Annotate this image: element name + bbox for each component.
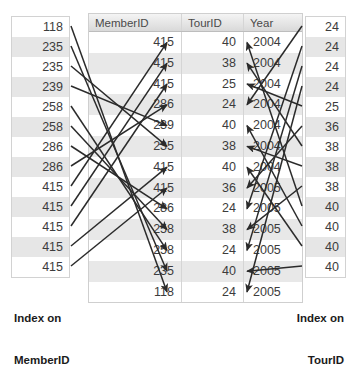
- data-table: MemberID TourID Year 4154020044153820044…: [88, 13, 303, 303]
- caption-right-line1: Index on: [258, 311, 344, 325]
- cell-memberid: 235: [89, 136, 182, 157]
- index-memberid-entry: 415: [12, 257, 69, 277]
- index-memberid-entry: 258: [12, 97, 69, 117]
- table-row: 415382004: [89, 53, 302, 74]
- index-tourid-entry: 40: [306, 217, 345, 237]
- table-body: 4154020044153820044152520042862420042394…: [89, 32, 302, 302]
- cell-tourid: 24: [182, 94, 244, 115]
- index-column-memberid: 118235235239258258286286415415415415415: [11, 16, 70, 278]
- cell-year: 2004: [244, 136, 302, 157]
- cell-memberid: 415: [89, 74, 182, 95]
- index-tourid-entry: 40: [306, 257, 345, 277]
- index-memberid-entry: 286: [12, 157, 69, 177]
- table-row: 286242004: [89, 94, 302, 115]
- cell-memberid: 415: [89, 32, 182, 53]
- index-memberid-entry: 235: [12, 37, 69, 57]
- index-memberid-entry: 415: [12, 217, 69, 237]
- index-tourid-entry: 24: [306, 77, 345, 97]
- index-tourid-entry: 36: [306, 117, 345, 137]
- cell-year: 2005: [244, 240, 302, 261]
- index-tourid-entry: 38: [306, 177, 345, 197]
- table-row: 415402004: [89, 157, 302, 178]
- index-memberid-entry: 235: [12, 57, 69, 77]
- cell-year: 2004: [244, 53, 302, 74]
- column-header-memberid: MemberID: [89, 14, 182, 31]
- cell-memberid: 415: [89, 53, 182, 74]
- index-tourid-entry: 38: [306, 157, 345, 177]
- table-row: 415252004: [89, 74, 302, 95]
- index-tourid-entry: 40: [306, 237, 345, 257]
- cell-year: 2004: [244, 157, 302, 178]
- index-memberid-entry: 118: [12, 17, 69, 37]
- column-header-tourid: TourID: [182, 14, 244, 31]
- index-tourid-entry: 25: [306, 97, 345, 117]
- cell-memberid: 286: [89, 94, 182, 115]
- cell-year: 2004: [244, 115, 302, 136]
- cell-year: 2005: [244, 261, 302, 282]
- cell-memberid: 258: [89, 219, 182, 240]
- table-row: 235382004: [89, 136, 302, 157]
- caption-left-line2: MemberID: [14, 353, 70, 367]
- caption-index-memberid: Index on MemberID: [14, 283, 70, 368]
- column-header-year: Year: [244, 14, 302, 31]
- cell-memberid: 415: [89, 157, 182, 178]
- index-memberid-entry: 415: [12, 237, 69, 257]
- cell-memberid: 258: [89, 240, 182, 261]
- cell-memberid: 286: [89, 198, 182, 219]
- cell-tourid: 40: [182, 32, 244, 53]
- cell-year: 2004: [244, 74, 302, 95]
- table-row: 258382005: [89, 219, 302, 240]
- index-column-tourid: 24242424253638383840404040: [305, 16, 346, 278]
- index-memberid-entry: 258: [12, 117, 69, 137]
- cell-tourid: 38: [182, 219, 244, 240]
- cell-tourid: 40: [182, 157, 244, 178]
- index-tourid-entry: 24: [306, 37, 345, 57]
- cell-memberid: 118: [89, 282, 182, 303]
- cell-memberid: 415: [89, 178, 182, 199]
- cell-tourid: 25: [182, 74, 244, 95]
- cell-year: 2004: [244, 32, 302, 53]
- cell-memberid: 235: [89, 261, 182, 282]
- cell-year: 2005: [244, 198, 302, 219]
- table-header-row: MemberID TourID Year: [89, 14, 302, 32]
- caption-index-tourid: Index on TourID: [258, 283, 344, 368]
- table-row: 286242005: [89, 198, 302, 219]
- index-memberid-entry: 239: [12, 77, 69, 97]
- cell-year: 2005: [244, 178, 302, 199]
- index-tourid-entry: 40: [306, 197, 345, 217]
- table-row: 415362005: [89, 178, 302, 199]
- cell-tourid: 40: [182, 261, 244, 282]
- index-memberid-entry: 286: [12, 137, 69, 157]
- index-tourid-entry: 24: [306, 17, 345, 37]
- table-row: 235402005: [89, 261, 302, 282]
- cell-year: 2005: [244, 219, 302, 240]
- index-tourid-entry: 24: [306, 57, 345, 77]
- cell-tourid: 38: [182, 136, 244, 157]
- cell-memberid: 239: [89, 115, 182, 136]
- cell-tourid: 24: [182, 282, 244, 303]
- caption-right-line2: TourID: [258, 353, 344, 367]
- index-memberid-entry: 415: [12, 197, 69, 217]
- table-row: 239402004: [89, 115, 302, 136]
- cell-tourid: 24: [182, 198, 244, 219]
- cell-year: 2004: [244, 94, 302, 115]
- cell-tourid: 36: [182, 178, 244, 199]
- cell-tourid: 38: [182, 53, 244, 74]
- index-tourid-entry: 38: [306, 137, 345, 157]
- table-row: 415402004: [89, 32, 302, 53]
- cell-tourid: 24: [182, 240, 244, 261]
- index-memberid-entry: 415: [12, 177, 69, 197]
- table-row: 258242005: [89, 240, 302, 261]
- cell-tourid: 40: [182, 115, 244, 136]
- caption-left-line1: Index on: [14, 311, 70, 325]
